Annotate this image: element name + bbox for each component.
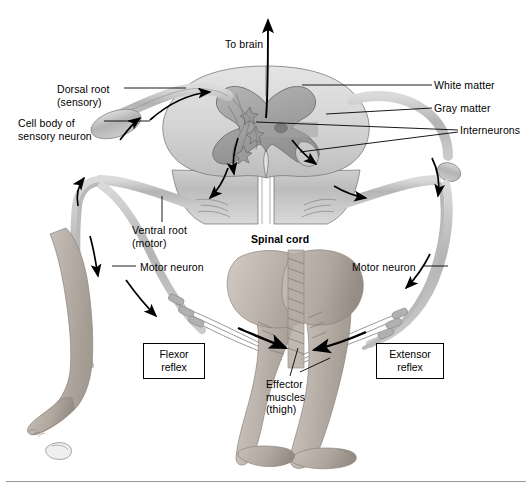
- label-to-brain: To brain: [225, 38, 263, 51]
- figure-canvas: To brain Dorsal root (sensory) Cell body…: [0, 0, 532, 498]
- label-extensor-reflex: Extensor reflex: [376, 343, 444, 379]
- reflex-arc-illustration: [0, 0, 532, 498]
- right-foot: [292, 448, 356, 469]
- arrow-motor-down-left: [90, 236, 98, 276]
- label-motor-neuron-right: Motor neuron: [352, 261, 416, 274]
- label-flexor-reflex: Flexor reflex: [143, 343, 205, 379]
- cord-ventral-fissure: [262, 172, 270, 224]
- cord-side-right: [274, 170, 360, 224]
- label-spinal-cord: Spinal cord: [251, 233, 309, 246]
- label-gray-matter: Gray matter: [434, 102, 491, 115]
- label-motor-neuron-left: Motor neuron: [140, 261, 204, 274]
- label-cell-body-sensory-neuron: Cell body of sensory neuron: [18, 117, 92, 142]
- label-white-matter: White matter: [434, 79, 495, 92]
- arrow-left-branch-down: [126, 280, 156, 316]
- label-ventral-root: Ventral root (motor): [132, 224, 187, 249]
- label-effector-muscles: Effector muscles (thigh): [266, 378, 305, 416]
- label-interneurons: Interneurons: [460, 124, 520, 137]
- bottom-rule: [6, 481, 526, 482]
- label-dorsal-root: Dorsal root (sensory): [57, 83, 109, 108]
